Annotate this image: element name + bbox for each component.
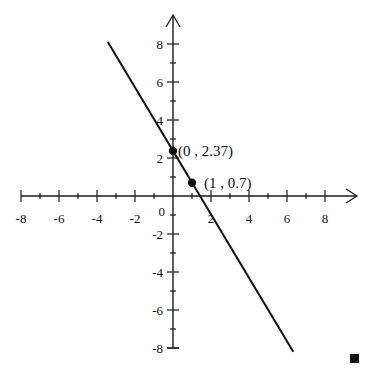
x-tick-label: -2 [130,211,141,226]
data-point [169,147,177,155]
data-point-label: (0 , 2.37) [178,143,233,160]
y-tick-label: -8 [152,341,163,356]
series-line [108,42,293,352]
data-point-label: (1 , 0.7) [204,175,252,192]
data-point [188,179,196,187]
y-tick-label: 6 [157,75,164,90]
x-tick-label: -6 [54,211,65,226]
x-tick-label: -8 [16,211,27,226]
y-tick-label: -2 [152,227,163,242]
y-tick-label: 2 [157,151,164,166]
x-tick-label: 6 [284,211,291,226]
x-tick-label: 4 [246,211,253,226]
y-tick-label: -6 [152,303,163,318]
x-tick-label: 8 [322,211,329,226]
y-tick-label: 8 [157,37,164,52]
end-square-marker [350,354,359,363]
line-chart: -8-6-4-224688642-2-4-6-80(0 , 2.37)(1 , … [0,0,380,386]
y-tick-label: -4 [152,265,163,280]
origin-label: 0 [159,204,166,219]
x-tick-label: -4 [92,211,103,226]
